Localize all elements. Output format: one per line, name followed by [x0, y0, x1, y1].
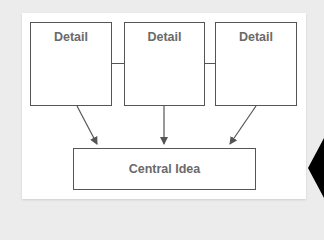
pointer-arrow-icon: [308, 138, 324, 198]
detail-label-1: Detail: [30, 30, 112, 44]
arrow-1: [77, 106, 97, 144]
detail-label-2: Detail: [124, 30, 205, 44]
detail-label-3: Detail: [215, 30, 297, 44]
arrow-3: [230, 106, 256, 144]
central-idea-label: Central Idea: [73, 162, 256, 176]
